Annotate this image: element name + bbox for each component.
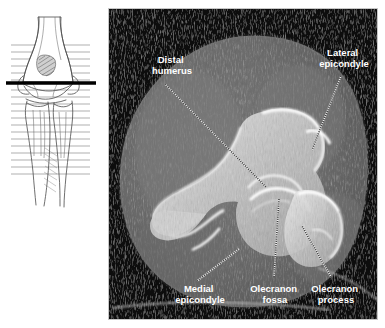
anatomy-figure: Distal humerus Lateral epicondyle Medial… — [0, 0, 385, 328]
label-distal-humerus: Distal humerus — [152, 54, 192, 76]
axial-ct-image: Distal humerus Lateral epicondyle Medial… — [108, 8, 380, 320]
label-olecranon-process: Olecranon process — [311, 283, 361, 305]
